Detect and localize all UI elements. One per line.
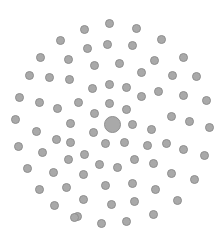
pattern-dot — [162, 139, 171, 148]
pattern-dot — [167, 169, 176, 178]
pattern-dot — [168, 71, 177, 80]
pattern-dot — [105, 99, 114, 108]
pattern-dot — [120, 138, 129, 147]
pattern-dot — [185, 117, 194, 126]
pattern-dot — [64, 55, 73, 64]
pattern-dot — [179, 53, 188, 62]
center-dot — [104, 116, 121, 133]
pattern-dot — [107, 200, 116, 209]
pattern-dot — [53, 104, 62, 113]
pattern-dot — [113, 163, 122, 172]
pattern-dot — [143, 141, 152, 150]
pattern-dot — [151, 185, 160, 194]
pattern-dot — [66, 138, 75, 147]
pattern-dot — [128, 120, 137, 129]
pattern-dot — [80, 150, 89, 159]
pattern-dot — [202, 96, 211, 105]
pattern-dot — [35, 98, 44, 107]
pattern-dot — [122, 105, 131, 114]
pattern-dot — [56, 36, 65, 45]
pattern-dot — [88, 84, 97, 93]
pattern-dot — [128, 179, 137, 188]
pattern-dot — [173, 196, 182, 205]
pattern-dot — [128, 41, 137, 50]
pattern-dot — [50, 201, 59, 210]
pattern-dot — [97, 219, 106, 228]
pattern-dot — [65, 75, 74, 84]
pattern-dot — [101, 181, 110, 190]
pattern-dot — [122, 217, 131, 226]
pattern-dot — [130, 197, 139, 206]
pattern-dot — [132, 24, 141, 33]
pattern-dot — [32, 127, 41, 136]
pattern-dot — [105, 80, 114, 89]
pattern-dot — [103, 40, 112, 49]
pattern-dot — [90, 61, 99, 70]
pattern-dot — [147, 125, 156, 134]
pattern-dot — [79, 195, 88, 204]
pattern-dot — [11, 115, 20, 124]
pattern-dot — [38, 148, 47, 157]
pattern-dot — [150, 56, 159, 65]
pattern-dot — [64, 155, 73, 164]
pattern-dot — [192, 72, 201, 81]
pattern-dot — [105, 19, 114, 28]
pattern-dot — [179, 145, 188, 154]
pattern-dot — [205, 123, 214, 132]
pattern-dot — [66, 119, 75, 128]
pattern-dot — [25, 71, 34, 80]
pattern-dot — [115, 59, 124, 68]
pattern-dot — [154, 87, 163, 96]
pattern-dot — [23, 164, 32, 173]
pattern-dot — [83, 44, 92, 53]
dot-pattern-canvas — [0, 0, 224, 244]
pattern-dot — [90, 109, 99, 118]
pattern-dot — [45, 73, 54, 82]
pattern-dot — [70, 213, 79, 222]
pattern-dot — [52, 135, 61, 144]
pattern-dot — [95, 160, 104, 169]
pattern-dot — [79, 170, 88, 179]
pattern-dot — [200, 151, 209, 160]
pattern-dot — [137, 92, 146, 101]
pattern-dot — [35, 185, 44, 194]
pattern-dot — [179, 91, 188, 100]
pattern-dot — [36, 53, 45, 62]
pattern-dot — [190, 175, 199, 184]
pattern-dot — [130, 155, 139, 164]
pattern-dot — [49, 168, 58, 177]
pattern-dot — [137, 68, 146, 77]
pattern-dot — [122, 83, 131, 92]
pattern-dot — [80, 25, 89, 34]
pattern-dot — [149, 159, 158, 168]
pattern-dot — [89, 128, 98, 137]
pattern-dot — [74, 98, 83, 107]
pattern-dot — [15, 93, 24, 102]
pattern-dot — [101, 139, 110, 148]
pattern-dot — [14, 142, 23, 151]
pattern-dot — [167, 112, 176, 121]
pattern-dot — [149, 210, 158, 219]
pattern-dot — [62, 183, 71, 192]
pattern-dot — [157, 35, 166, 44]
